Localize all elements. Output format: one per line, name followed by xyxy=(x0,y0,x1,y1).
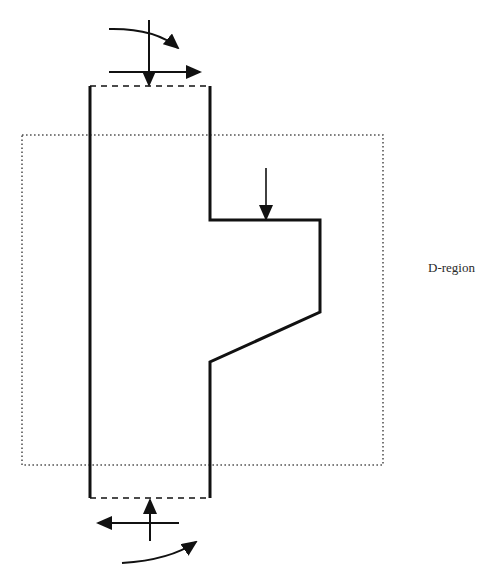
top-moment-arrow-icon xyxy=(109,29,178,48)
d-region-boundary xyxy=(22,135,383,465)
d-region-label: D-region xyxy=(428,260,475,275)
d-region-diagram: D-region xyxy=(0,0,503,586)
top-forces xyxy=(109,20,200,85)
bottom-forces xyxy=(98,500,196,563)
column-corbel-outline xyxy=(210,86,320,498)
bottom-moment-arrow-icon xyxy=(122,542,196,563)
